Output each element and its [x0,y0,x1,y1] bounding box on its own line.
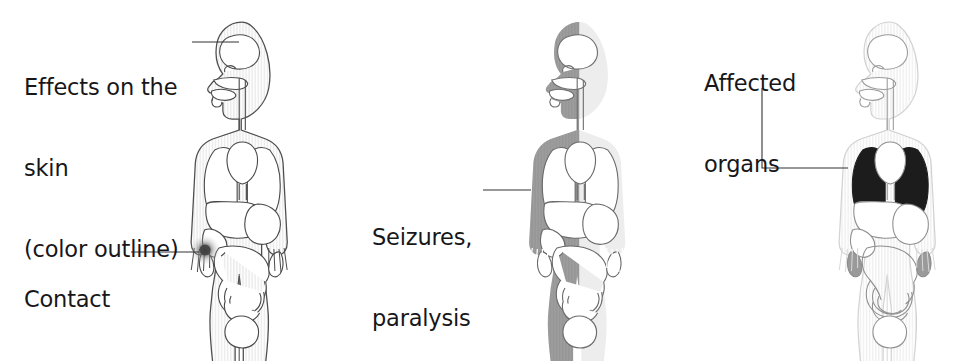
label-contact-allergy: Contact allergy, dermatitis [24,232,137,361]
label-affected-organs: Affected organs [704,16,796,205]
contact-allergy-core [200,245,211,256]
label-line: Affected [704,70,796,97]
label-line: Contact [24,286,137,313]
label-line: skin [24,155,179,182]
affected-organs-figure [839,22,935,361]
label-line: organs [704,151,796,178]
label-line: paralysis [372,305,502,332]
label-line: Seizures, [372,224,502,251]
label-line: Effects on the [24,74,179,101]
label-seizures-paralysis: Seizures, paralysis (solid color) [372,170,502,361]
anatomical-legend-figure: Effects on the skin (color outline) Cont… [0,0,955,361]
skin-effects-figure [191,22,287,361]
seizures-paralysis-figure [529,22,625,361]
